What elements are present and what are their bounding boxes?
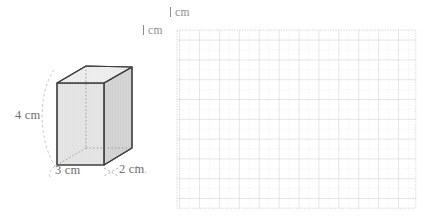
grid-left-unit-text: cm [148,24,163,36]
prism-depth-label: 2 cm [119,162,144,177]
grid-left-tick-icon [143,25,144,35]
figure-svg [0,0,434,224]
prism-group [42,66,146,177]
prism-height-label: 4 cm [15,108,40,123]
height-leader-arc [42,70,55,166]
grid-top-unit-text: cm [175,6,190,18]
grid-top-unit-label: cm [170,6,190,18]
prism-front-face [57,83,104,165]
prism-width-label: 3 cm [55,163,80,178]
grid-left-unit-label: cm [143,24,163,36]
grid-major-lines [177,30,416,208]
grid-group [177,30,416,208]
dimension-crossing-marks [104,168,118,176]
grid-top-tick-icon [170,7,171,17]
figure-canvas: 4 cm 3 cm 2 cm cm cm [0,0,434,224]
